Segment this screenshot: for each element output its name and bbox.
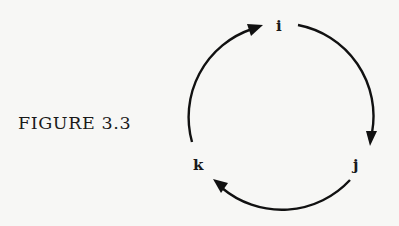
cycle-diagram: i j k (0, 0, 399, 226)
node-k: k (193, 156, 204, 174)
edge-k-to-i (189, 24, 263, 142)
node-i: i (276, 17, 282, 35)
edge-i-to-j (298, 25, 377, 146)
node-j: j (351, 156, 358, 174)
arrowhead-icon (247, 24, 263, 36)
edge-j-to-k (213, 179, 350, 210)
arrowhead-icon (366, 131, 377, 146)
